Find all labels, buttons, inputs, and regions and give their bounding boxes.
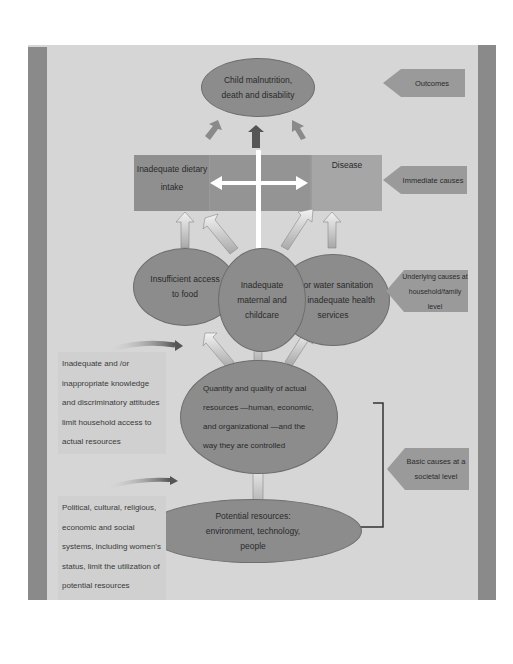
side-note-knowledge: Inadequate and /or inappropriate knowled…	[58, 352, 166, 454]
care-label: Inadequate maternal and childcare	[231, 278, 293, 323]
outcome-node: Child malnutrition, death and disability	[201, 58, 315, 117]
potential-resources-node: Potential resources: environment, techno…	[144, 499, 362, 563]
immediate-cause-inadequate-dietary-intake: Inadequate dietary intake	[136, 160, 208, 196]
political-note-text: Political, cultural, religious, economic…	[62, 503, 161, 590]
basic-tag-label: Basic causes at a societal level	[403, 454, 469, 484]
dietary-intake-label: Inadequate dietary intake	[137, 164, 207, 192]
potential-label: Potential resources: environment, techno…	[200, 509, 306, 554]
level-tag-immediate: Immediate causes	[383, 166, 467, 194]
food-label: Insufficient access to food	[146, 272, 224, 302]
underlying-tag-label: Underlying causes at household/family le…	[402, 269, 468, 314]
disease-label: Disease	[332, 160, 363, 170]
immediate-cause-disease: Disease	[312, 160, 382, 170]
immediate-tag-label: Immediate causes	[403, 173, 464, 188]
resources-label: Quantity and quality of actual resources…	[203, 379, 315, 455]
side-note-political: Political, cultural, religious, economic…	[58, 496, 166, 600]
knowledge-note-text: Inadequate and /or inappropriate knowled…	[62, 359, 159, 446]
actual-resources-node: Quantity and quality of actual resources…	[180, 360, 338, 474]
outcome-label: Child malnutrition, death and disability	[216, 73, 300, 103]
outcomes-tag-label: Outcomes	[415, 76, 449, 91]
underlying-care-node: Inadequate maternal and childcare	[218, 248, 306, 352]
